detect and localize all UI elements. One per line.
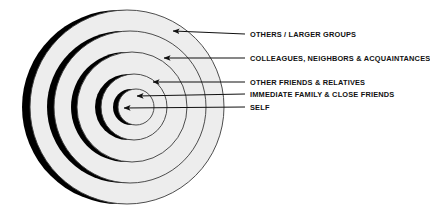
ring-self (118, 89, 154, 125)
ring-label-other-friends-relatives: OTHER FRIENDS & RELATIVES (250, 78, 365, 87)
ring-label-colleagues-neighbors-acquaintances: COLLEAGUES, NEIGHBORS & ACQUAINTANCES (250, 54, 430, 63)
ring-label-immediate-family-close-friends: IMMEDIATE FAMILY & CLOSE FRIENDS (250, 90, 394, 99)
ring-label-others-larger-groups: OTHERS / LARGER GROUPS (250, 30, 356, 39)
ring-label-self: SELF (250, 103, 270, 112)
